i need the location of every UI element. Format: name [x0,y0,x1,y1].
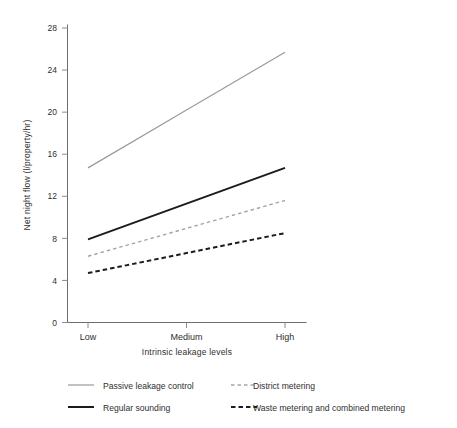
x-axis-category-labels: LowMediumHigh [80,332,295,342]
x-category-label: Medium [170,332,202,342]
y-tick-label: 24 [48,65,58,75]
series-line [88,233,285,273]
legend-label: District metering [253,381,315,391]
data-series-group [88,52,285,273]
y-tick-label: 28 [48,23,58,33]
x-category-label: Low [80,332,97,342]
series-line [88,168,285,240]
chart-legend: Passive leakage controlDistrict metering… [68,381,405,413]
legend-label: Regular sounding [103,403,171,413]
y-tick-label: 0 [52,318,57,328]
legend-label: Passive leakage control [103,381,194,391]
y-tick-label: 20 [48,107,58,117]
x-axis-ticks [88,323,285,329]
y-axis-tick-labels: 0481216202428 [48,23,58,328]
y-tick-label: 4 [52,276,57,286]
y-tick-label: 16 [48,149,58,159]
series-line [88,52,285,168]
x-category-label: High [276,332,295,342]
y-tick-label: 12 [48,191,58,201]
x-axis-title: Intrinsic leakage levels [142,347,232,357]
y-axis-ticks [62,28,68,323]
y-axis-title: Net night flow (l/property/hr) [22,120,32,231]
legend-label: Waste metering and combined metering [253,403,405,413]
y-tick-label: 8 [52,234,57,244]
line-chart-figure: 0481216202428 LowMediumHigh Net night fl… [0,0,457,428]
